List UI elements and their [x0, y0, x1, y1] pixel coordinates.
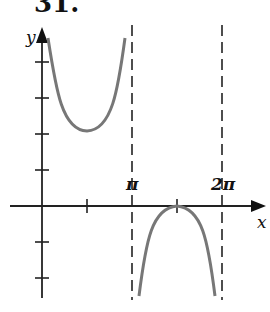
x-tick-label-2pi: 2π — [210, 174, 236, 194]
x-tick-label-pi: π — [125, 174, 139, 194]
y-axis-arrow-icon — [36, 27, 48, 43]
curve-lower-branch — [139, 206, 215, 296]
x-axis-arrow-icon — [251, 200, 266, 212]
graph: y x π 2π — [0, 0, 270, 312]
y-axis-label: y — [25, 27, 36, 47]
curve-upper-branch — [48, 38, 125, 131]
x-axis-label: x — [257, 212, 267, 232]
